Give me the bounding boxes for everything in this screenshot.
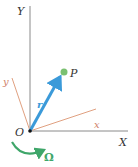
label-body-y: y <box>2 76 9 87</box>
body-y-axis <box>12 78 30 131</box>
label-origin: O <box>15 126 24 139</box>
label-vector-r: r <box>37 99 43 110</box>
label-fixed-y: Y <box>17 5 26 18</box>
origin-dot <box>28 129 32 133</box>
diagram-canvas: Y X y x O r P Ω <box>0 0 138 167</box>
label-point-p: P <box>69 67 78 80</box>
label-omega: Ω <box>44 151 54 164</box>
label-body-x: x <box>94 119 100 130</box>
label-fixed-x: X <box>118 136 128 149</box>
rotation-arrow-icon <box>12 142 44 154</box>
point-p <box>61 69 68 76</box>
